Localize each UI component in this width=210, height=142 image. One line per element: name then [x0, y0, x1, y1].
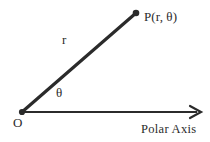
origin-label: O: [13, 116, 22, 129]
point-p-dot: [133, 10, 140, 17]
polar-coordinate-diagram: P(r, θ) r θ O Polar Axis: [0, 0, 210, 142]
radius-line: [22, 13, 136, 112]
diagram-canvas: [0, 0, 210, 142]
polar-axis-label: Polar Axis: [141, 123, 196, 136]
angle-theta-label: θ: [56, 86, 62, 99]
point-p-label: P(r, θ): [144, 10, 177, 23]
radius-label: r: [62, 33, 66, 46]
